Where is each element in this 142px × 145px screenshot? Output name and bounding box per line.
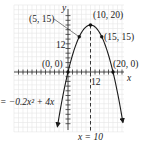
point-label-20-0: (20, 0) (113, 59, 138, 70)
x-axis-label: x (126, 73, 132, 83)
data-point (111, 70, 114, 73)
data-point (66, 70, 69, 73)
data-point (78, 35, 81, 38)
point-label-15-15: (15, 15) (104, 32, 134, 43)
data-point (89, 23, 92, 26)
parabola-chart: y x 12 12 (0, 0) (5, 15) (10, 20) (15, 1… (0, 0, 142, 145)
data-point (100, 35, 103, 38)
y-tick-label-12: 12 (56, 40, 66, 50)
y-axis-label: y (61, 3, 67, 13)
point-label-10-20: (10, 20) (93, 10, 123, 21)
x-tick-label-12: 12 (91, 77, 101, 87)
point-label-5-15: (5, 15) (29, 14, 54, 25)
equation-label: = −0.2x² + 4x (0, 97, 55, 107)
point-label-0-0: (0, 0) (42, 59, 63, 70)
symmetry-label: x = 10 (77, 132, 103, 142)
